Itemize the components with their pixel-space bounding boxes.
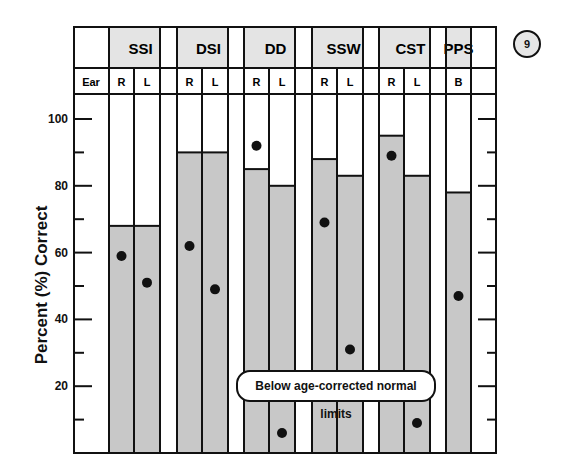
score-dot-ssw-l <box>345 344 355 354</box>
y-tick-100: 100 <box>38 112 68 126</box>
test-label-ssw: SSW <box>326 40 361 57</box>
score-dot-cst-l <box>412 418 422 428</box>
test-label-cst: CST <box>396 40 426 57</box>
ear-l: L <box>212 76 219 88</box>
ear-l: L <box>144 76 151 88</box>
bar-pps-b <box>446 192 471 453</box>
bar-dd-l <box>269 186 295 453</box>
y-tick-40: 40 <box>38 312 68 326</box>
bar-cst-r <box>379 136 404 453</box>
bar-cst-l <box>404 176 430 453</box>
bar-dsi-r <box>177 152 202 453</box>
score-dot-dsi-r <box>185 241 195 251</box>
y-tick-60: 60 <box>38 246 68 260</box>
test-label-dsi: DSI <box>196 40 221 57</box>
score-dot-ssi-r <box>117 251 127 261</box>
y-tick-20: 20 <box>38 379 68 393</box>
figure-number-badge: 9 <box>513 30 541 58</box>
score-dot-pps-b <box>454 291 464 301</box>
ear-r: R <box>388 76 396 88</box>
test-label-ssi: SSI <box>128 40 152 57</box>
ear-l: L <box>347 76 354 88</box>
ear-label: Ear <box>82 76 100 88</box>
bar-dsi-l <box>202 152 228 453</box>
bar-dd-r <box>244 169 269 453</box>
score-dot-ssw-r <box>320 218 330 228</box>
ear-r: R <box>321 76 329 88</box>
chart-canvas: SSIDSIDDSSWCSTPPSEarRLRLRLRLRLB <box>0 0 572 476</box>
score-dot-dsi-l <box>210 284 220 294</box>
test-label-dd: DD <box>265 40 287 57</box>
score-dot-dd-r <box>252 141 262 151</box>
ear-r: R <box>118 76 126 88</box>
ear-l: L <box>414 76 421 88</box>
ear-b: B <box>455 76 463 88</box>
ear-r: R <box>253 76 261 88</box>
y-axis-label: Percent (%) Correct <box>32 205 52 365</box>
test-label-pps: PPS <box>443 40 473 57</box>
score-dot-cst-r <box>387 151 397 161</box>
y-tick-80: 80 <box>38 179 68 193</box>
score-dot-dd-l <box>277 428 287 438</box>
bar-ssi-l <box>134 226 160 453</box>
ear-r: R <box>186 76 194 88</box>
score-dot-ssi-l <box>142 278 152 288</box>
ear-l: L <box>279 76 286 88</box>
below-normal-limits-label: Below age-corrected normal limits <box>236 370 436 402</box>
